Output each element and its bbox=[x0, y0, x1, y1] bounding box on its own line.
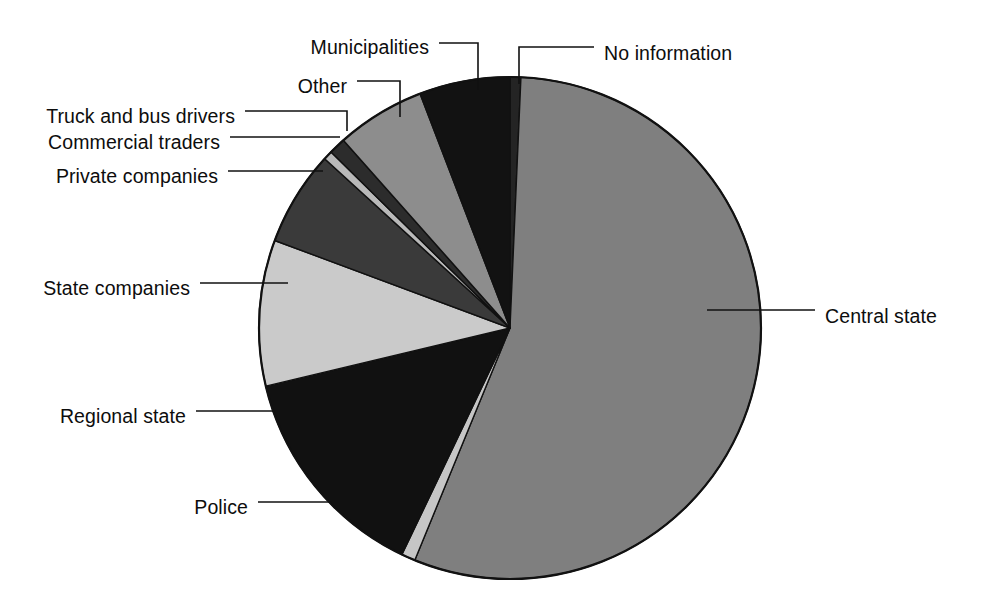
slice-label-no-information: No information bbox=[604, 42, 732, 64]
pie-wedge-group bbox=[259, 77, 761, 579]
slice-label-private-companies: Private companies bbox=[56, 165, 218, 187]
slice-label-other: Other bbox=[298, 75, 348, 97]
leader-line-truck-and-bus-drivers bbox=[245, 111, 347, 131]
slice-label-commercial-traders: Commercial traders bbox=[48, 131, 220, 153]
pie-chart-canvas: No informationCentral statePoliceRegiona… bbox=[0, 0, 985, 603]
slice-label-municipalities: Municipalities bbox=[311, 36, 430, 58]
slice-label-central-state: Central state bbox=[825, 305, 937, 327]
slice-label-police: Police bbox=[194, 496, 248, 518]
slice-label-regional-state: Regional state bbox=[60, 405, 186, 427]
pie-chart-figure: No informationCentral statePoliceRegiona… bbox=[0, 0, 985, 603]
slice-label-truck-and-bus-drivers: Truck and bus drivers bbox=[46, 105, 235, 127]
slice-label-state-companies: State companies bbox=[43, 277, 190, 299]
